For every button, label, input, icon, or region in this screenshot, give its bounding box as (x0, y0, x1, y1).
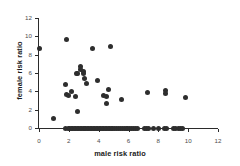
data-point (64, 37, 69, 42)
data-point (75, 109, 80, 114)
data-point (104, 94, 109, 99)
data-point (90, 46, 95, 51)
data-point (63, 82, 68, 87)
y-tick-mark (35, 73, 38, 74)
y-tick-mark (35, 55, 38, 56)
data-point (73, 94, 78, 99)
y-tick-mark (35, 36, 38, 37)
x-tick-mark (39, 129, 40, 132)
x-tick-label-wrap: 0 (31, 133, 47, 142)
x-tick-label: 6 (127, 137, 130, 144)
x-axis-title: male risk ratio (0, 149, 240, 158)
data-point (81, 71, 86, 76)
data-point (145, 90, 150, 95)
y-axis-title: female risk ratio (15, 16, 24, 126)
data-point (156, 126, 161, 131)
y-tick-mark (35, 110, 38, 111)
x-tick-label-wrap: 12 (210, 133, 226, 142)
plot-area (39, 18, 218, 128)
data-point (183, 95, 188, 100)
x-tick-label: 8 (157, 137, 160, 144)
x-tick-label-wrap: 8 (150, 133, 166, 142)
x-tick-label: 12 (215, 137, 222, 144)
data-point (104, 101, 109, 106)
data-point (51, 116, 56, 121)
x-tick-label-wrap: 6 (121, 133, 137, 142)
x-tick-mark (218, 129, 219, 132)
data-point (106, 87, 111, 92)
data-point (95, 78, 100, 83)
data-point (84, 81, 89, 86)
data-point (108, 44, 113, 49)
data-point (37, 46, 42, 51)
x-tick-mark (188, 129, 189, 132)
data-point (180, 126, 185, 131)
y-tick-mark (35, 128, 38, 129)
x-tick-label: 10 (185, 137, 192, 144)
y-tick-mark (35, 91, 38, 92)
x-tick-label: 0 (37, 137, 40, 144)
x-tick-label: 4 (97, 137, 100, 144)
data-point (164, 126, 169, 131)
x-tick-label-wrap: 4 (91, 133, 107, 142)
data-point (135, 126, 140, 131)
x-tick-label-wrap: 10 (180, 133, 196, 142)
data-point (119, 97, 124, 102)
scatter-plot-figure: 024681012 024681012 male risk ratio fema… (0, 0, 240, 166)
data-point (66, 93, 71, 98)
y-tick-mark (35, 18, 38, 19)
x-tick-label-wrap: 2 (61, 133, 77, 142)
data-point (163, 91, 168, 96)
x-tick-label: 2 (67, 137, 70, 144)
